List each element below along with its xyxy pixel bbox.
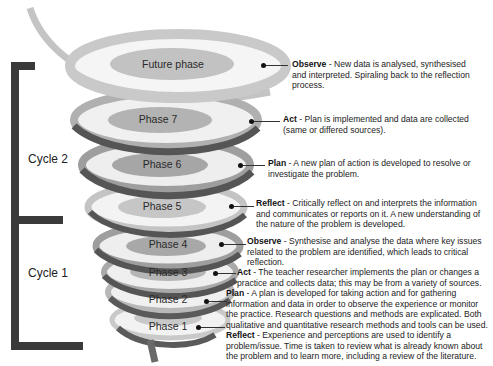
description-act-cycle-2: Act - Plan is implemented and data are c… (283, 114, 483, 135)
description-term: Plan (226, 288, 244, 298)
cycle-2-bracket-top (11, 62, 35, 70)
description-term: Observe (247, 236, 281, 246)
description-term: Reflect (226, 330, 255, 340)
description-plan-cycle-2: Plan - A new plan of action is developed… (268, 158, 483, 179)
cycle-divider-bracket (11, 216, 63, 224)
connector-line-5 (234, 206, 254, 207)
description-term: Reflect (256, 198, 285, 208)
description-reflect-cycle-2: Reflect - Critically reflect on and inte… (256, 198, 486, 230)
description-act-cycle-1: Act - The teacher researcher implements … (237, 267, 487, 288)
connector-line-3 (218, 273, 236, 274)
description-text: - The teacher researcher implements the … (237, 267, 482, 288)
description-observe-cycle-1: Observe - Synthesise and analyse the dat… (247, 236, 485, 268)
cycle-1-bracket-bottom (11, 342, 83, 350)
description-term: Act (237, 267, 251, 277)
connector-line-7 (254, 121, 280, 122)
phase-label-4: Phase 4 (128, 238, 208, 250)
phase-label-7: Phase 7 (118, 113, 198, 125)
description-text: - Synthesise and analyse the data where … (247, 236, 482, 267)
phase-label-6: Phase 6 (122, 158, 202, 170)
phase-label-5: Phase 5 (122, 200, 202, 212)
description-text: - Plan is implemented and data are colle… (283, 114, 469, 135)
phase-label-future: Future phase (128, 58, 218, 70)
connector-line-2 (209, 301, 227, 302)
description-plan-cycle-1: Plan - A plan is developed for taking ac… (226, 288, 488, 330)
connector-line-4 (224, 244, 246, 245)
connector-line-1 (201, 327, 225, 328)
description-term: Act (283, 114, 297, 124)
description-text: - Critically reflect on and interprets t… (256, 198, 480, 229)
cycle-1-label: Cycle 1 (28, 266, 68, 280)
connector-line-6 (243, 165, 265, 166)
cycle-2-label: Cycle 2 (28, 152, 68, 166)
description-term: Observe (292, 59, 326, 69)
description-observe-future: Observe - New data is analysed, synthesi… (292, 59, 482, 91)
description-text: - A plan is developed for taking action … (226, 288, 488, 330)
connector-line-future (266, 65, 288, 66)
phase-label-2: Phase 2 (128, 293, 208, 305)
cycle-bracket-vertical (11, 62, 19, 350)
description-text: - Experience and perceptions are used to… (226, 330, 483, 361)
description-reflect-cycle-1: Reflect - Experience and perceptions are… (226, 330, 488, 362)
description-text: - A new plan of action is developed to r… (268, 158, 471, 179)
description-term: Plan (268, 158, 286, 168)
action-research-spiral-diagram: Cycle 2 Cycle 1 Future phase Phase 7 Pha… (0, 0, 493, 366)
phase-label-3: Phase 3 (128, 266, 208, 278)
